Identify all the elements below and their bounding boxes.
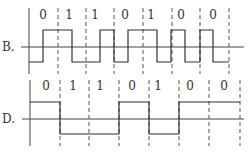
bit-label: 0 (128, 79, 136, 93)
bit-label: 1 (147, 8, 155, 22)
signal-waveform (29, 30, 229, 62)
bit-label: 1 (154, 79, 162, 93)
bit-label: 0 (42, 79, 50, 93)
bit-label: 1 (96, 79, 104, 93)
bit-label: 0 (209, 8, 217, 22)
bit-label: 0 (39, 8, 47, 22)
bit-label: 0 (220, 79, 228, 93)
bit-label: 1 (65, 8, 73, 22)
diagram-b: B.0110100 (2, 8, 244, 74)
bit-label: 0 (121, 8, 129, 22)
signal-encoding-diagram: B.0110100D.0110100 (0, 0, 248, 153)
option-label: D. (2, 112, 15, 126)
bit-label: 0 (177, 8, 185, 22)
bit-label: 0 (186, 79, 194, 93)
bit-label: 1 (69, 79, 77, 93)
diagram-d: D.0110100 (2, 79, 244, 146)
option-label: B. (2, 40, 15, 54)
bit-label: 1 (91, 8, 99, 22)
